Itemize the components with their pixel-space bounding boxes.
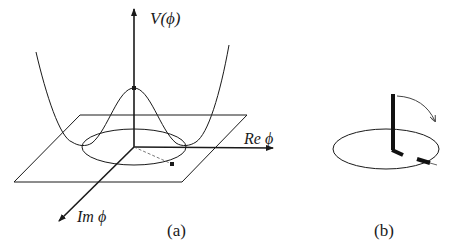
caption-b: (b) bbox=[374, 221, 394, 240]
caption-a: (a) bbox=[167, 221, 186, 240]
re-axis bbox=[134, 147, 273, 148]
peak-point bbox=[132, 86, 136, 90]
rotation-arrow-icon bbox=[397, 96, 435, 121]
vacuum-point bbox=[170, 162, 174, 166]
panel-b-circle bbox=[333, 129, 439, 169]
im-axis-label: Im ϕ bbox=[76, 208, 106, 226]
foot-segment bbox=[392, 150, 403, 155]
radius-dashed bbox=[134, 147, 172, 164]
mexican-hat-diagram: V(ϕ) Re ϕ Im ϕ (a) (b) bbox=[0, 0, 456, 246]
v-axis-label: V(ϕ) bbox=[150, 9, 181, 28]
rotated-vector-tip bbox=[430, 163, 437, 165]
complex-plane bbox=[14, 115, 247, 182]
panel-a: V(ϕ) Re ϕ Im ϕ (a) bbox=[14, 9, 273, 240]
re-axis-label: Re ϕ bbox=[243, 130, 273, 148]
rotated-vector-dashed bbox=[417, 159, 430, 163]
panel-b: (b) bbox=[333, 94, 439, 240]
